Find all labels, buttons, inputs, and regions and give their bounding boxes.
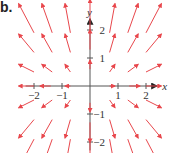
field-arrow: [42, 139, 52, 153]
field-arrow: [128, 4, 138, 33]
x-axis-label: x: [161, 80, 167, 92]
y-tick-label: 2: [100, 24, 106, 36]
field-arrow: [146, 64, 161, 72]
field-arrow: [65, 64, 70, 72]
field-arrow: [65, 34, 70, 52]
field-arrow: [42, 34, 52, 52]
field-arrow: [128, 100, 138, 108]
y-tick-label: −2: [93, 136, 105, 148]
x-tick-label: 2: [143, 89, 149, 101]
field-arrow: [65, 139, 70, 153]
field-arrow: [110, 4, 115, 33]
axes: [26, 19, 158, 151]
field-arrow: [110, 64, 115, 72]
field-arrow: [110, 100, 115, 108]
field-arrow: [128, 64, 138, 72]
field-arrow: [42, 120, 52, 138]
field-arrow: [19, 100, 34, 108]
field-arrow: [146, 100, 161, 108]
y-tick-label: −1: [93, 108, 105, 120]
field-arrow: [65, 100, 70, 108]
y-tick-label: 1: [100, 52, 106, 64]
field-arrow: [65, 120, 70, 138]
field-arrow: [110, 120, 115, 138]
y-axis-label: y: [86, 6, 92, 18]
field-arrow: [128, 139, 138, 153]
field-arrow: [42, 100, 52, 108]
x-tick-label: −1: [56, 89, 68, 101]
x-tick-label: 1: [115, 89, 121, 101]
field-arrow: [110, 139, 115, 153]
field-arrow: [19, 120, 34, 138]
field-arrow: [110, 34, 115, 52]
field-arrow: [146, 139, 161, 153]
field-arrow: [19, 139, 34, 153]
field-arrow: [19, 64, 34, 72]
axis-labels: −2−112−2−112xy: [28, 6, 167, 148]
field-arrow: [128, 34, 138, 52]
field-arrow: [146, 34, 161, 52]
field-arrow: [42, 4, 52, 33]
field-arrow: [42, 64, 52, 72]
field-arrow: [146, 120, 161, 138]
field-arrow: [128, 120, 138, 138]
x-tick-label: −2: [28, 89, 40, 101]
field-arrow: [146, 4, 161, 33]
vector-field-plot: −2−112−2−112xy: [0, 0, 174, 153]
field-arrow: [65, 4, 70, 33]
field-arrow: [19, 34, 34, 52]
field-arrow: [19, 4, 34, 33]
